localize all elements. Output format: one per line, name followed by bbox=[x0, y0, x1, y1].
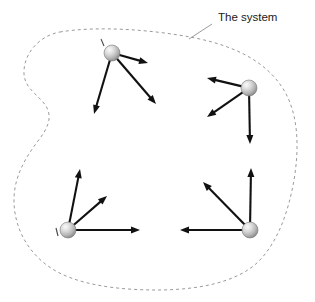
diagram-canvas: The system bbox=[0, 0, 315, 302]
particle-bottom-right-sphere bbox=[242, 222, 258, 238]
vector-bl-up-arrowhead bbox=[75, 169, 82, 179]
vector-tr-upper-left bbox=[207, 77, 243, 87]
vector-tr-lower-left-shaft bbox=[213, 91, 244, 113]
vector-br-left bbox=[180, 227, 244, 234]
label-leader-line bbox=[189, 24, 212, 39]
particle-bottom-left-tick-mark bbox=[56, 228, 58, 236]
vector-br-up-arrowhead bbox=[247, 168, 254, 177]
particle-top-right bbox=[207, 77, 257, 144]
vector-tr-upper-left-shaft bbox=[214, 80, 243, 87]
vector-tr-down-shaft bbox=[249, 94, 250, 137]
vector-br-left-arrowhead bbox=[180, 227, 189, 234]
particle-top-right-sphere bbox=[241, 80, 257, 96]
vector-br-upper-left-shaft bbox=[208, 187, 246, 226]
vector-tl-right-shaft bbox=[118, 55, 141, 62]
vector-bl-up bbox=[69, 169, 82, 224]
vector-br-up-shaft bbox=[250, 175, 251, 224]
vector-bl-upper-right bbox=[73, 196, 107, 226]
vector-br-upper-left bbox=[203, 182, 246, 226]
system-label: The system bbox=[218, 11, 277, 23]
vector-tl-lower-left bbox=[93, 59, 110, 114]
vector-br-up bbox=[247, 168, 254, 224]
vector-bl-upper-right-shaft bbox=[73, 201, 102, 226]
particle-top-left-tick-mark bbox=[101, 39, 104, 46]
vector-tl-lower-left-shaft bbox=[96, 59, 110, 108]
vector-tl-lower-left-arrowhead bbox=[93, 104, 100, 114]
particle-bottom-left bbox=[56, 169, 140, 238]
vector-tr-lower-left bbox=[207, 91, 244, 117]
vector-tl-lower-right bbox=[116, 58, 156, 104]
system-boundary bbox=[14, 29, 297, 290]
vector-tr-lower-left-arrowhead bbox=[207, 109, 216, 117]
vector-bl-right bbox=[74, 227, 140, 234]
vector-tl-right-arrowhead bbox=[138, 57, 148, 64]
vector-bl-right-arrowhead bbox=[131, 227, 140, 234]
particles-group bbox=[56, 39, 258, 238]
system-diagram: The system bbox=[0, 0, 315, 302]
vector-tl-lower-right-shaft bbox=[116, 58, 152, 99]
particle-bottom-left-sphere bbox=[60, 222, 76, 238]
particle-top-left bbox=[93, 39, 156, 114]
particle-bottom-right bbox=[180, 168, 258, 238]
particle-top-left-sphere bbox=[104, 45, 120, 61]
vector-tr-down bbox=[246, 94, 253, 144]
vector-tl-right bbox=[118, 55, 148, 64]
vector-tr-down-arrowhead bbox=[246, 135, 253, 144]
vector-bl-up-shaft bbox=[69, 176, 78, 224]
vector-tr-upper-left-arrowhead bbox=[207, 77, 217, 84]
